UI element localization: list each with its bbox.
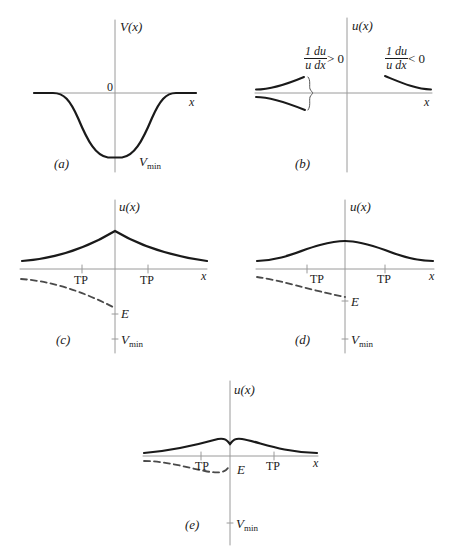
left-upper-growing-curve	[256, 77, 304, 90]
panel-c-vmin-label: Vmin	[121, 333, 143, 349]
panel-e-tp-label-left: TP	[195, 460, 209, 472]
panel-c-energy-label: E	[121, 307, 129, 320]
panel-d-x-axis-label: x	[429, 270, 434, 282]
panel-d-energy-label: E	[351, 295, 359, 308]
panel-c-tp-label-left: TP	[74, 274, 88, 286]
vmin-main: V	[351, 332, 359, 347]
panel-c-caption: (c)	[56, 333, 70, 346]
right-derivative-annotation: 1 duu dx< 0	[385, 45, 425, 71]
vmin-sub: min	[129, 339, 143, 349]
panel-d	[256, 200, 434, 353]
panel-c	[20, 200, 207, 353]
frac-numerator: 1 du	[385, 45, 408, 59]
vmin-sub: min	[147, 161, 161, 171]
vmin-main: V	[121, 332, 129, 347]
panel-a-y-axis-label: V(x)	[120, 20, 142, 33]
panel-a-x-axis-label: x	[189, 96, 194, 108]
left-derivative-annotation: 1 duu dx> 0	[304, 45, 344, 71]
panel-a-origin-label: 0	[107, 81, 113, 93]
panel-b-y-axis-label: u(x)	[352, 19, 373, 32]
panel-a-caption: (a)	[54, 157, 69, 170]
frac-denominator: u dx	[305, 59, 325, 72]
dashed-potential-curve	[144, 461, 230, 472]
panel-e-y-axis-label: u(x)	[234, 383, 255, 396]
panel-a-vmin-label: Vmin	[139, 155, 161, 171]
panel-e	[143, 381, 318, 545]
panel-b-x-axis-label: x	[424, 96, 429, 108]
vmin-sub: min	[244, 523, 258, 533]
panel-c-tp-label-right: TP	[140, 274, 154, 286]
frac-denominator: u dx	[386, 59, 406, 72]
panel-d-tp-label-left: TP	[310, 273, 324, 285]
panel-e-energy-label: E	[237, 463, 245, 476]
panel-b	[255, 18, 432, 172]
panel-d-tp-label-right: TP	[377, 273, 391, 285]
panel-e-x-axis-label: x	[313, 457, 318, 469]
right-decaying-curve	[385, 76, 431, 90]
relation: > 0	[327, 51, 344, 66]
left-lower-growing-curve	[256, 97, 305, 110]
panel-d-y-axis-label: u(x)	[350, 200, 371, 213]
dashed-potential-curve	[257, 277, 345, 297]
relation: < 0	[408, 51, 425, 66]
vmin-main: V	[236, 516, 244, 531]
vmin-main: V	[139, 154, 147, 169]
panel-c-y-axis-label: u(x)	[119, 200, 140, 213]
panel-c-x-axis-label: x	[201, 270, 206, 282]
panel-e-vmin-label: Vmin	[236, 517, 258, 533]
panel-b-caption: (b)	[295, 157, 310, 170]
panel-e-tp-label-right: TP	[266, 460, 280, 472]
vmin-sub: min	[359, 339, 373, 349]
panel-a	[34, 20, 196, 172]
panel-e-caption: (e)	[185, 518, 199, 531]
frac-numerator: 1 du	[304, 45, 327, 59]
panel-d-vmin-label: Vmin	[351, 333, 373, 349]
panel-d-caption: (d)	[295, 333, 310, 346]
dashed-potential-curve	[21, 279, 115, 308]
